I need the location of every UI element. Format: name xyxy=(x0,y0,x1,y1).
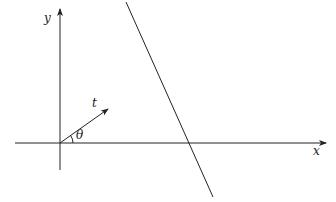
angle-theta-label: θ xyxy=(76,128,84,142)
vector-t-label: t xyxy=(92,96,97,110)
vector-t-arrow xyxy=(60,109,108,143)
y-axis-label: y xyxy=(43,11,51,25)
diagram-canvas: y x t θ xyxy=(0,0,336,202)
angle-theta-arc xyxy=(71,136,73,144)
line-l xyxy=(126,2,213,197)
x-axis-label: x xyxy=(313,144,320,158)
